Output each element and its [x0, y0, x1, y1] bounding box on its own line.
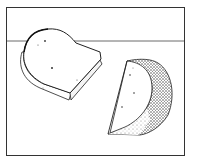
cheese-illustration	[0, 0, 197, 159]
cheese-wedge-icon	[108, 59, 172, 135]
cheese-block-icon	[21, 29, 102, 100]
